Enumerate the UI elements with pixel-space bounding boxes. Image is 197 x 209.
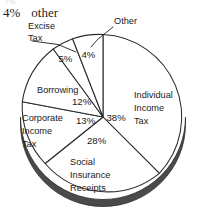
- social-insurance-receipts-label-line3: Receipts: [70, 183, 106, 193]
- individual-income-tax-label-line2: Income: [134, 103, 164, 113]
- social-insurance-receipts-label-line1: Social: [70, 157, 95, 167]
- corporate-income-tax-label-line1: Corporate: [22, 113, 63, 123]
- corporate-income-tax-label-line2: Income: [22, 126, 52, 136]
- social-insurance-receipts-label-line2: Insurance: [70, 170, 110, 180]
- individual-income-tax-label-line1: Individual: [134, 90, 173, 100]
- corporate-income-tax-label-line3: Tax: [22, 139, 37, 149]
- social-insurance-receipts-percent-label: 28%: [87, 135, 107, 146]
- excise-tax-percent-label: 5%: [59, 53, 73, 64]
- individual-income-tax-label-line3: Tax: [134, 116, 149, 126]
- borrowing-percent-label: 12%: [72, 96, 92, 107]
- excise-tax-label-line2: Tax: [28, 33, 43, 43]
- pie-chart: 5% 4% 12% 13% 38% 28% Excise Tax Other B…: [0, 0, 197, 209]
- figure-root: 2% ....... ......... .... ... ....... ..…: [0, 0, 197, 209]
- borrowing-label: Borrowing: [37, 85, 78, 95]
- other-label: Other: [114, 16, 137, 26]
- corporate-income-tax-percent-label: 13%: [76, 115, 96, 126]
- individual-income-tax-percent-label: 38%: [107, 112, 127, 123]
- other-percent-label: 4%: [82, 49, 96, 60]
- excise-tax-label-line1: Excise: [28, 21, 55, 31]
